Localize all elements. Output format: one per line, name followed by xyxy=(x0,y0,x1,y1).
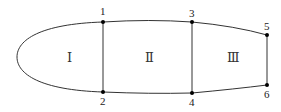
bottom-boundary-4-6 xyxy=(192,85,267,93)
point-6-label: 6 xyxy=(264,88,270,100)
point-2-label: 2 xyxy=(100,95,106,107)
point-4-dot xyxy=(190,91,194,95)
point-3-dot xyxy=(190,20,194,24)
point-2-dot xyxy=(101,90,105,94)
region-III-label: Ⅲ xyxy=(227,50,240,65)
point-6-dot xyxy=(265,83,269,87)
region-II-label: Ⅱ xyxy=(145,50,154,65)
point-3-label: 3 xyxy=(189,7,195,19)
point-1-dot xyxy=(101,20,105,24)
top-boundary-3-5 xyxy=(192,22,267,35)
point-5-dot xyxy=(265,33,269,37)
flow-region-diagram: 1 2 3 4 5 6 Ⅰ Ⅱ Ⅲ xyxy=(0,0,281,112)
point-4-label: 4 xyxy=(189,96,195,108)
left-bulge-curve xyxy=(17,22,103,92)
bottom-boundary-2-4 xyxy=(103,92,192,93)
region-I-label: Ⅰ xyxy=(67,50,72,65)
point-1-label: 1 xyxy=(100,5,106,17)
point-5-label: 5 xyxy=(264,20,270,32)
top-boundary-1-3 xyxy=(103,21,192,23)
